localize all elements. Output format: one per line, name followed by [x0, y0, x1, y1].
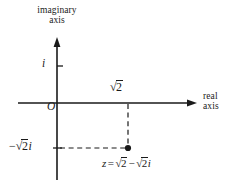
tick-label-neg-sqrt2i: −√2i: [9, 138, 32, 152]
real-axis-label-line2: axis: [203, 102, 243, 112]
imaginary-axis-label-line2: axis: [16, 16, 98, 26]
complex-plane-figure: imaginary axis real axis O i √2 −√2i z=√…: [0, 0, 246, 184]
origin-label: O: [47, 101, 55, 113]
point-equation-label: z=√2−√2i: [102, 156, 151, 169]
imaginary-unit: i: [28, 139, 31, 153]
radicand-value: 2: [21, 139, 28, 152]
imaginary-axis-arrowhead: [54, 37, 61, 47]
imaginary-unit: i: [148, 157, 151, 169]
radical-imag-part: √2i: [136, 156, 151, 169]
radical-real-part: √2: [116, 156, 128, 169]
equals-sign: =: [106, 157, 115, 169]
real-axis-label: real axis: [203, 92, 243, 111]
radicand-value: 2: [121, 157, 128, 169]
minus-sign: −: [9, 139, 16, 153]
plotted-point-marker: [125, 145, 131, 151]
imaginary-axis-label: imaginary axis: [16, 6, 98, 25]
radical-sqrt2: √2: [110, 79, 123, 93]
radicand-value: 2: [116, 80, 123, 93]
tick-label-i: i: [42, 58, 45, 70]
minus-operator: −: [127, 157, 136, 169]
real-axis-arrowhead: [187, 100, 197, 107]
radical-neg-sqrt2i: −√2i: [9, 138, 32, 152]
tick-label-sqrt2: √2: [110, 79, 123, 93]
radicand-value: 2: [141, 157, 148, 169]
